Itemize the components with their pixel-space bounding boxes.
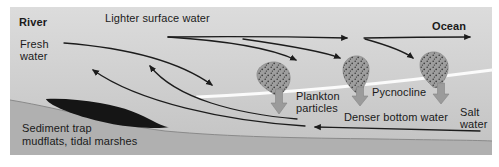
label-sediment-trap-line2: mudflats, tidal marshes — [22, 135, 137, 147]
label-pycnocline: Pycnocline — [372, 86, 426, 98]
label-salt-water: Salt water — [460, 106, 498, 130]
label-denser-bottom-water: Denser bottom water — [344, 111, 448, 123]
label-fresh-water: Fresh water — [20, 38, 64, 62]
estuary-circulation-figure: River Lighter surface water Ocean Fresh … — [0, 0, 499, 167]
label-ocean: Ocean — [432, 20, 466, 32]
label-river: River — [19, 16, 47, 28]
label-sediment-trap-line1: Sediment trap — [22, 122, 92, 134]
label-lighter-surface-water: Lighter surface water — [105, 12, 210, 24]
